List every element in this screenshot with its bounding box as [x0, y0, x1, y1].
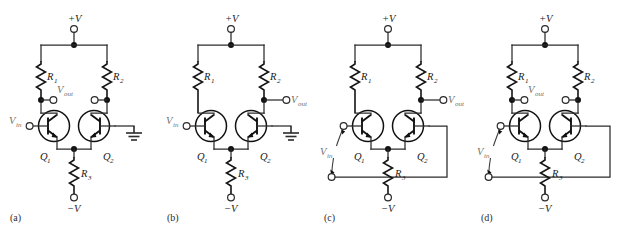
terminal-vin-lower-d[interactable] — [485, 174, 492, 181]
label-q1-sub-a: 1 — [47, 157, 51, 165]
label-vout-sub-b: out — [298, 100, 308, 108]
terminal-vout-c[interactable] — [440, 97, 447, 104]
label-r2-a: R — [112, 71, 120, 82]
label-q1-sub-b: 1 — [204, 157, 208, 165]
label-r1-d: R — [517, 71, 525, 82]
label-r2-b: R — [269, 71, 277, 82]
terminal-supply-negative-c[interactable] — [385, 194, 392, 201]
label-q2-sub-a: 2 — [110, 157, 114, 165]
label-supply-positive-a: +V — [68, 13, 83, 24]
label-supply-negative-b: −V — [224, 203, 239, 214]
terminal-supply-negative-b[interactable] — [228, 194, 235, 201]
label-r1-b: R — [203, 71, 211, 82]
label-supply-negative-d: −V — [538, 203, 553, 214]
label-supply-negative-a: −V — [67, 203, 82, 214]
terminal-vin-lower-c[interactable] — [328, 174, 335, 181]
label-vout-sub-a: out — [64, 90, 74, 98]
circuit-panel-a: +V R 1 R 2 V out V in Q 1 Q 2 R 3 −V (a) — [0, 0, 157, 231]
label-r2-sub-c: 2 — [434, 77, 438, 85]
terminal-vout-right-a[interactable] — [91, 97, 98, 104]
label-r3-sub-b: 3 — [244, 174, 249, 182]
label-r3-c: R — [394, 168, 402, 179]
label-r1-a: R — [46, 71, 54, 82]
terminal-vin-b[interactable] — [183, 123, 190, 130]
label-r1-sub-b: 1 — [211, 77, 215, 85]
terminal-vout-left-a[interactable] — [50, 97, 57, 104]
label-q2-sub-c: 2 — [424, 157, 428, 165]
label-r1-sub-c: 1 — [368, 77, 372, 85]
caption-panel-d: (d) — [481, 212, 493, 224]
label-supply-positive-c: +V — [382, 13, 397, 24]
label-q1-sub-c: 1 — [361, 157, 365, 165]
label-vin-sub-d: in — [484, 152, 490, 160]
label-r2-d: R — [583, 71, 591, 82]
terminal-vout-b[interactable] — [283, 97, 290, 104]
label-vin-sub-a: in — [16, 121, 22, 129]
label-vout-sub-d: out — [535, 90, 545, 98]
label-r2-sub-a: 2 — [120, 77, 124, 85]
terminal-supply-negative-a[interactable] — [71, 194, 78, 201]
label-r2-sub-b: 2 — [277, 77, 281, 85]
label-vin-sub-c: in — [327, 152, 333, 160]
label-supply-positive-d: +V — [539, 13, 554, 24]
label-q2-sub-b: 2 — [267, 157, 271, 165]
terminal-supply-positive-b[interactable] — [228, 26, 235, 33]
label-r3-d: R — [551, 168, 559, 179]
label-r2-c: R — [426, 71, 434, 82]
figure-differential-amplifier-configurations: +V R 1 R 2 V out V in Q 1 Q 2 R 3 −V (a) — [0, 0, 628, 231]
label-supply-positive-b: +V — [225, 13, 240, 24]
terminal-supply-positive-c[interactable] — [385, 26, 392, 33]
terminal-supply-negative-d[interactable] — [542, 194, 549, 201]
label-r3-sub-a: 3 — [87, 174, 92, 182]
caption-panel-c: (c) — [324, 212, 335, 224]
circuit-panel-d: +V R 1 R 2 V out V in Q 1 Q 2 R 3 −V (d) — [471, 0, 628, 231]
terminal-supply-positive-a[interactable] — [71, 26, 78, 33]
label-r1-c: R — [360, 71, 368, 82]
label-q2-sub-d: 2 — [581, 157, 585, 165]
circuit-panel-c: +V R 1 R 2 V out V in Q 1 Q 2 R 3 −V (c) — [314, 0, 471, 231]
label-r3-a: R — [80, 168, 88, 179]
label-r3-sub-d: 3 — [558, 174, 563, 182]
terminal-vin-upper-c[interactable] — [340, 123, 347, 130]
terminal-vin-a[interactable] — [26, 123, 33, 130]
terminal-vin-upper-d[interactable] — [497, 123, 504, 130]
circuit-panel-b: +V R 1 R 2 V out V in Q 1 Q 2 R 3 −V (b) — [157, 0, 314, 231]
terminal-supply-positive-d[interactable] — [542, 26, 549, 33]
label-q1-sub-d: 1 — [518, 157, 522, 165]
caption-panel-a: (a) — [10, 212, 21, 224]
label-r3-b: R — [237, 168, 245, 179]
label-r3-sub-c: 3 — [401, 174, 406, 182]
label-vout-sub-c: out — [455, 100, 465, 108]
terminal-vout-right-d[interactable] — [562, 97, 569, 104]
caption-panel-b: (b) — [167, 212, 179, 224]
label-r2-sub-d: 2 — [591, 77, 595, 85]
label-supply-negative-c: −V — [381, 203, 396, 214]
label-vin-sub-b: in — [173, 121, 179, 129]
terminal-vout-left-d[interactable] — [521, 97, 528, 104]
